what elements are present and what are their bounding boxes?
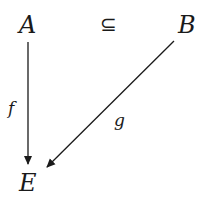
edge-label-f: f [8, 100, 14, 117]
node-b: B [178, 13, 196, 37]
subset-relation: ⊆ [100, 14, 117, 34]
node-a: A [19, 13, 36, 37]
arrow-g [47, 41, 174, 167]
node-e: E [19, 171, 37, 195]
edge-label-g: g [114, 112, 125, 129]
